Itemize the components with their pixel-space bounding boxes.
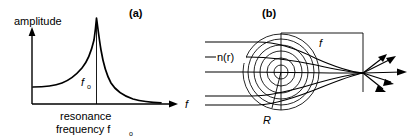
- resonance-marker-label: f o: [81, 76, 91, 90]
- arrowhead-3: [397, 69, 407, 76]
- panel-a-caption-line2-text: frequency f: [56, 123, 111, 135]
- panel-a-caption-line2: frequency f o: [56, 123, 133, 137]
- radius-label: R: [263, 114, 271, 126]
- refracted-rays: [243, 42, 363, 105]
- amplitude-axis: [29, 27, 36, 104]
- physics-figure: amplitude f f o resonance frequency f o …: [0, 0, 416, 137]
- index-profile-label: n(r): [217, 51, 234, 63]
- focal-length-label: f: [319, 37, 323, 49]
- panel-a-id: (a): [129, 7, 143, 19]
- panel-b-id: (b): [262, 7, 276, 19]
- refracted-ray-3: [243, 72, 363, 73]
- frequency-axis: [32, 101, 178, 108]
- diverging-ray-5: [363, 73, 383, 89]
- panel-a-caption-line2-subscript: o: [129, 130, 133, 137]
- refracted-ray-2: [248, 57, 363, 73]
- panel-b: f R n(r) (b): [205, 7, 407, 126]
- resonance-f-subscript: o: [87, 83, 91, 90]
- frequency-axis-label: f: [185, 98, 189, 110]
- resonance-curve: [33, 18, 161, 103]
- arrowhead-2: [386, 56, 396, 64]
- arrowhead-5: [375, 85, 386, 92]
- resonance-f-letter: f: [81, 76, 85, 88]
- panel-a-caption-line1: resonance: [60, 110, 111, 122]
- amplitude-axis-label: amplitude: [14, 15, 62, 27]
- panel-a: amplitude f f o resonance frequency f o …: [14, 7, 189, 137]
